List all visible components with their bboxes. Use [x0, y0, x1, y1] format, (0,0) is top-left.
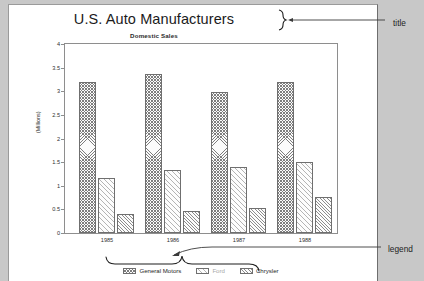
legend-swatch-icon: [123, 268, 136, 274]
bar: [211, 92, 228, 233]
legend-item: General Motors: [123, 267, 181, 274]
bar-group: 1988: [277, 44, 333, 233]
y-axis-tick-mark: [61, 162, 65, 163]
y-axis-tick-mark: [61, 91, 65, 92]
bar: [249, 208, 266, 234]
y-axis-tick-mark: [61, 139, 65, 140]
legend-swatch-icon: [196, 268, 209, 274]
y-axis-tick-mark: [61, 115, 65, 116]
bar: [164, 170, 181, 233]
legend-swatch-icon: [240, 268, 253, 274]
bar: [183, 211, 200, 233]
legend-callout-label: legend: [388, 244, 413, 254]
y-axis-tick-mark: [61, 186, 65, 187]
y-axis-tick-mark: [61, 209, 65, 210]
bar-group: 1985: [79, 44, 135, 233]
legend-item: Chrysler: [240, 267, 279, 274]
y-axis-tick-label: 0.5: [52, 206, 60, 212]
chart-page-sheet: U.S. Auto Manufacturers Domestic Sales (…: [8, 4, 378, 281]
bar-group: 1987: [211, 44, 267, 233]
bar: [296, 162, 313, 233]
y-axis-tick-label: 2.5: [52, 112, 60, 118]
y-axis-tick-label: 2: [57, 136, 60, 142]
y-axis-tick-label: 1.5: [52, 159, 60, 165]
bar: [98, 178, 115, 233]
y-axis-tick-mark: [61, 44, 65, 45]
bar: [230, 167, 247, 233]
y-axis-tick-label: 0: [57, 230, 60, 236]
y-axis-tick-mark: [61, 233, 65, 234]
bar: [145, 74, 162, 233]
x-axis-tick-label: 1987: [211, 237, 267, 243]
bar-group: 1986: [145, 44, 201, 233]
chart-title: U.S. Auto Manufacturers: [9, 11, 299, 27]
y-axis-tick-label: 3.5: [52, 65, 60, 71]
y-axis-tick-label: 3: [57, 88, 60, 94]
x-axis-tick-label: 1986: [145, 237, 201, 243]
y-axis-tick-label: 4: [57, 41, 60, 47]
x-axis-tick-label: 1988: [277, 237, 333, 243]
chart-subtitle: Domestic Sales: [9, 32, 299, 39]
legend-label: General Motors: [139, 267, 181, 274]
chart-legend: General MotorsFordChrysler: [64, 267, 338, 274]
bar: [315, 197, 332, 233]
legend-label: Chrysler: [256, 267, 279, 274]
x-axis-tick-label: 1985: [79, 237, 135, 243]
legend-item: Ford: [196, 267, 225, 274]
y-axis-tick-label: 1: [57, 183, 60, 189]
bar: [117, 214, 134, 233]
y-axis-tick-mark: [61, 68, 65, 69]
bar: [79, 82, 96, 233]
y-axis-title: (Millions): [35, 111, 41, 133]
bar: [277, 82, 294, 233]
plot-area: 00.511.522.533.54 1985198619871988: [64, 43, 338, 234]
legend-label: Ford: [212, 267, 225, 274]
title-callout-label: title: [393, 18, 406, 28]
